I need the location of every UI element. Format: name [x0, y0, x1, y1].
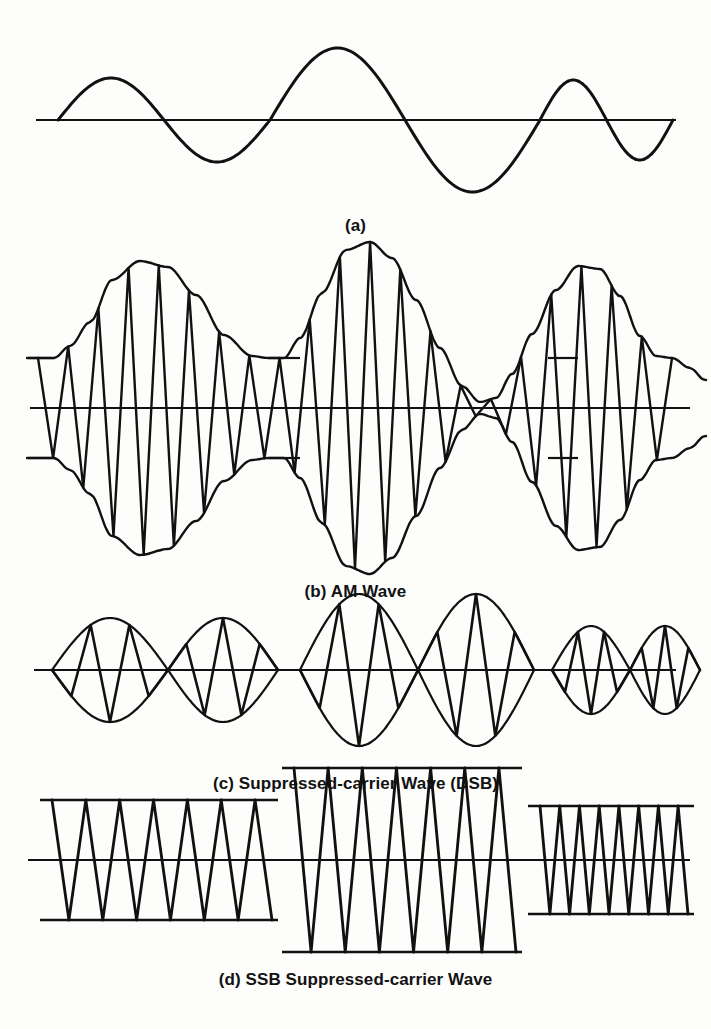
dsb-carrier-trace-4: [552, 632, 630, 714]
am-lower-envelope: [28, 414, 706, 574]
dsb-carrier-trace-2: [300, 604, 418, 746]
am-carrier-trace: [38, 242, 672, 569]
dsb-envelope-top-2: [300, 594, 418, 670]
dsb-carrier-trace-1: [168, 618, 278, 715]
dsb-envelope-bot-5: [630, 670, 700, 714]
dsb-envelope-bot-2: [300, 670, 418, 746]
dsb-carrier-trace-3: [418, 594, 534, 736]
dsb-carrier-trace-0: [52, 625, 168, 722]
dsb-envelope-top-3: [418, 594, 534, 670]
dsb-carrier-trace-5: [630, 626, 700, 708]
panel-modulating-signal: (a): [0, 14, 711, 240]
panel-ssb-wave: (d) SSB Suppressed-carrier Wave: [0, 798, 711, 1008]
figure-modulation-waveforms: (a) (b) AM Wave (c) Suppressed-carrier W…: [0, 0, 711, 1029]
modulating-signal-plot: [0, 14, 711, 214]
dsb-envelope-top-0: [52, 618, 168, 670]
caption-a: (a): [0, 216, 711, 236]
caption-c: (c) Suppressed-carrier Wave (DSB): [0, 774, 711, 794]
am-wave-plot: [0, 238, 711, 578]
ssb-wave-plot: [0, 798, 711, 958]
dsb-envelope-bot-3: [418, 670, 534, 746]
dsb-envelope-top-1: [168, 618, 278, 670]
dsb-envelope-bot-0: [52, 670, 168, 722]
dsb-envelope-bot-1: [168, 670, 278, 722]
caption-d: (d) SSB Suppressed-carrier Wave: [0, 970, 711, 990]
panel-am-wave: (b) AM Wave: [0, 238, 711, 606]
dsb-wave-plot: [0, 604, 711, 770]
dsb-envelope-top-4: [552, 626, 630, 670]
caption-b: (b) AM Wave: [0, 582, 711, 602]
panel-dsb-wave: (c) Suppressed-carrier Wave (DSB): [0, 604, 711, 800]
